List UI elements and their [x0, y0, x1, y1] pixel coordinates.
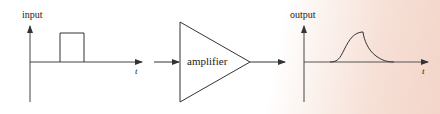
input-pulse	[60, 33, 84, 62]
diagram-canvas: input t amplifier output t	[0, 0, 440, 114]
input-graph	[30, 26, 142, 102]
output-graph	[304, 26, 428, 102]
output-time-label: t	[422, 66, 425, 76]
amplifier-label: amplifier	[187, 55, 227, 67]
output-pulse	[330, 32, 394, 62]
input-axis-label: input	[22, 9, 43, 20]
output-axis-label: output	[290, 9, 316, 20]
input-time-label: t	[135, 66, 138, 76]
